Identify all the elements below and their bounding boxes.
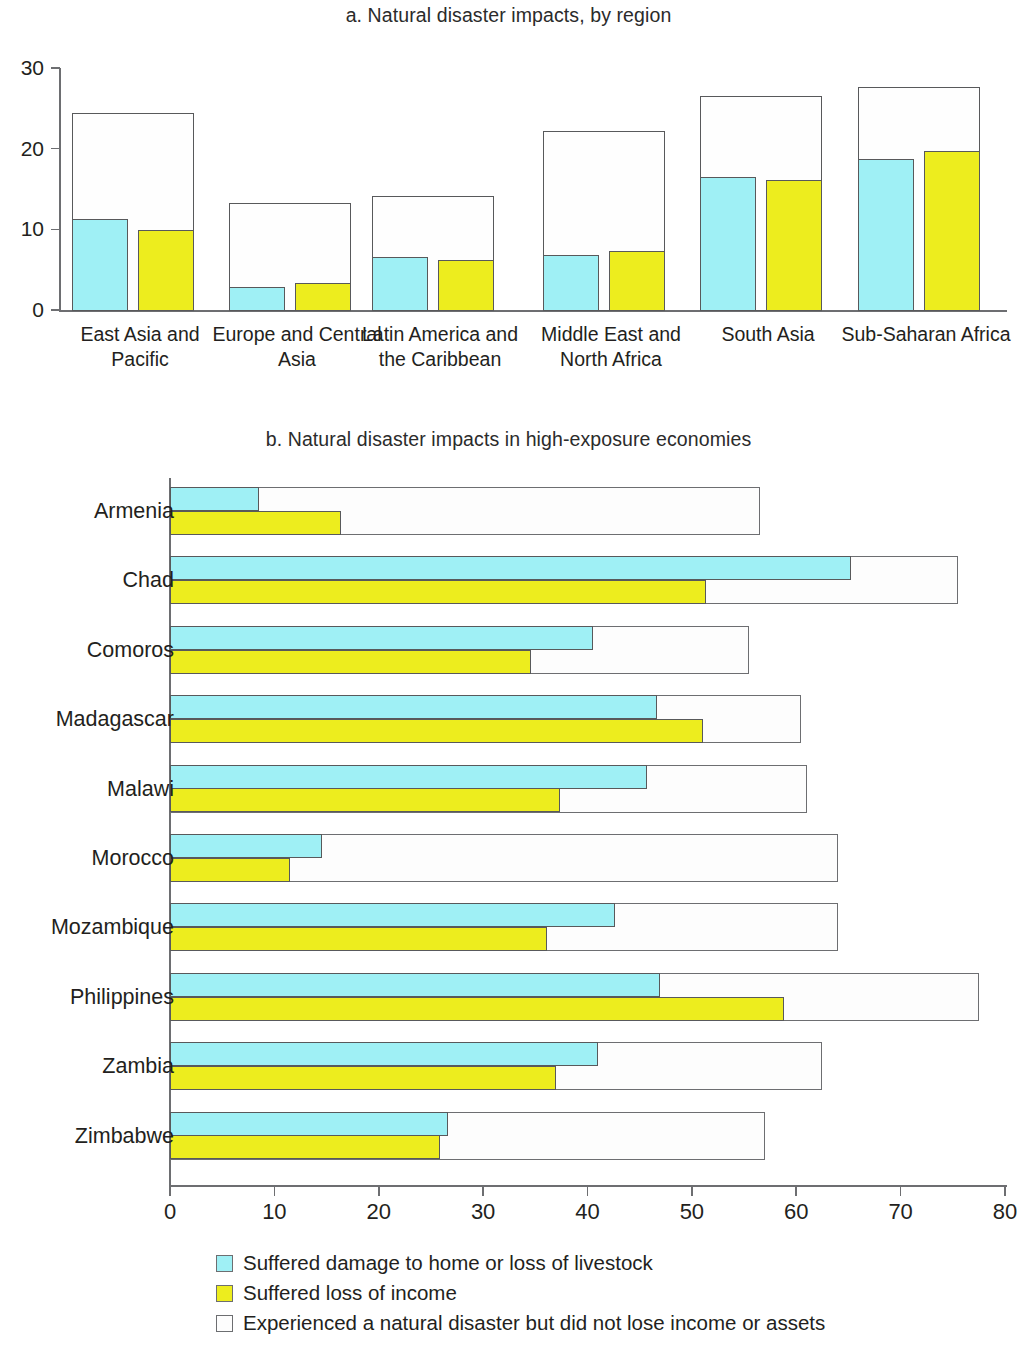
panel-b-bar-loss-income	[170, 719, 703, 743]
panel-b-x-tick-label: 70	[871, 1199, 931, 1225]
panel-b-bar-damage-home	[170, 765, 647, 789]
panel-b-category-label: Morocco	[92, 846, 174, 871]
panel-b-x-tick-label: 50	[662, 1199, 722, 1225]
panel-a-total-bar	[700, 96, 822, 311]
panel-b-x-tick-label: 60	[766, 1199, 826, 1225]
panel-a-y-axis-line	[59, 68, 61, 311]
panel-b-category-label: Zambia	[102, 1054, 174, 1079]
panel-b-x-tick	[482, 1185, 484, 1196]
legend-label: Suffered damage to home or loss of lives…	[243, 1251, 653, 1275]
panel-b-category-label: Armenia	[94, 499, 174, 524]
panel-a-bar-loss-income	[295, 283, 351, 311]
panel-b-total-bar	[170, 973, 979, 1021]
panel-b-category-label: Comoros	[87, 637, 174, 662]
panel-a-grouped-bar-chart: a. Natural disaster impacts, by region 0…	[0, 0, 1017, 415]
legend-label: Experienced a natural disaster but did n…	[243, 1311, 825, 1335]
panel-b-bar-loss-income	[170, 1066, 556, 1090]
panel-b-bar-loss-income	[170, 997, 784, 1021]
panel-b-x-tick	[795, 1185, 797, 1196]
panel-b-bar-loss-income	[170, 511, 341, 535]
panel-b-bar-damage-home	[170, 1112, 448, 1136]
panel-a-bar-group	[858, 68, 994, 311]
legend-swatch-icon	[216, 1255, 233, 1272]
panel-b-x-tick	[378, 1185, 380, 1196]
panel-b-category-label: Mozambique	[51, 915, 174, 940]
panel-b-bar-damage-home	[170, 626, 593, 650]
panel-b-x-tick-label: 0	[140, 1199, 200, 1225]
panel-a-bar-loss-income	[609, 251, 665, 312]
panel-a-category-label: Sub-Saharan Africa	[840, 322, 1012, 347]
legend-label: Suffered loss of income	[243, 1281, 457, 1305]
panel-a-category-label: East Asia and Pacific	[54, 322, 226, 372]
panel-a-y-tick-label: 10	[0, 217, 44, 241]
panel-b-total-bar	[170, 1042, 822, 1090]
panel-b-category-label: Madagascar	[56, 707, 174, 732]
panel-a-category-label: Middle East and North Africa	[525, 322, 697, 372]
panel-b-bar-loss-income	[170, 650, 531, 674]
legend-item: Suffered loss of income	[216, 1278, 1016, 1308]
panel-b-bar-loss-income	[170, 1135, 440, 1159]
panel-b-bar-damage-home	[170, 695, 657, 719]
panel-b-total-bar	[170, 626, 749, 674]
panel-a-category-label: South Asia	[682, 322, 854, 347]
panel-a-bar-loss-income	[924, 151, 980, 312]
panel-a-total-bar	[372, 196, 494, 311]
panel-b-category-label: Malawi	[107, 776, 174, 801]
panel-b-title: b. Natural disaster impacts in high-expo…	[0, 428, 1017, 451]
panel-a-bar-loss-income	[438, 260, 494, 311]
panel-b-horizontal-bar-chart: b. Natural disaster impacts in high-expo…	[0, 415, 1017, 1346]
panel-b-x-tick-label: 40	[558, 1199, 618, 1225]
panel-b-category-label: Chad	[123, 568, 174, 593]
panel-b-bar-loss-income	[170, 580, 706, 604]
panel-a-total-bar	[72, 113, 194, 311]
panel-a-y-tick-label: 30	[0, 56, 44, 80]
panel-a-y-tick	[51, 148, 60, 150]
panel-b-bar-damage-home	[170, 1042, 598, 1066]
panel-b-bar-damage-home	[170, 903, 615, 927]
panel-b-x-tick	[274, 1185, 276, 1196]
panel-b-bar-loss-income	[170, 788, 560, 812]
panel-b-bar-damage-home	[170, 556, 852, 580]
panel-a-bar-loss-income	[766, 180, 822, 311]
panel-a-y-tick-label: 20	[0, 137, 44, 161]
panel-b-category-label: Zimbabwe	[75, 1123, 174, 1148]
panel-a-y-tick-label: 0	[0, 298, 44, 322]
panel-b-total-bar	[170, 903, 838, 951]
panel-a-bar-group	[229, 68, 365, 311]
panel-a-total-bar	[858, 87, 980, 311]
panel-b-bar-loss-income	[170, 858, 290, 882]
legend-swatch-icon	[216, 1285, 233, 1302]
panel-b-x-tick-label: 10	[244, 1199, 304, 1225]
panel-a-bar-damage-home	[700, 177, 756, 311]
panel-b-x-tick	[587, 1185, 589, 1196]
panel-a-category-label: Latin America and the Caribbean	[354, 322, 526, 372]
panel-a-bar-loss-income	[138, 230, 194, 311]
panel-a-total-bar	[229, 203, 351, 311]
panel-b-x-tick	[900, 1185, 902, 1196]
panel-b-plot-area: 01020304050607080 ArmeniaChadComorosMada…	[0, 470, 1017, 1185]
panel-a-bar-group	[72, 68, 208, 311]
panel-a-bar-damage-home	[72, 219, 128, 311]
panel-a-category-labels: East Asia and PacificEurope and Central …	[0, 322, 1017, 417]
panel-a-title: a. Natural disaster impacts, by region	[0, 4, 1017, 27]
panel-a-bar-damage-home	[858, 159, 914, 311]
panel-a-plot-area: 0102030	[0, 55, 1017, 320]
panel-b-x-tick-label: 30	[453, 1199, 513, 1225]
panel-a-bar-group	[372, 68, 508, 311]
panel-b-total-bar	[170, 1112, 765, 1160]
legend-item: Experienced a natural disaster but did n…	[216, 1308, 1016, 1338]
panel-b-x-tick-label: 80	[975, 1199, 1017, 1225]
panel-a-bar-damage-home	[372, 257, 428, 311]
panel-b-category-label: Philippines	[70, 984, 174, 1009]
panel-a-y-tick	[51, 67, 60, 69]
panel-b-total-bar	[170, 834, 838, 882]
panel-a-bar-damage-home	[229, 287, 285, 311]
chart-legend: Suffered damage to home or loss of lives…	[216, 1248, 1016, 1338]
panel-b-x-tick	[691, 1185, 693, 1196]
panel-b-total-bar	[170, 695, 801, 743]
panel-a-total-bar	[543, 131, 665, 311]
panel-a-bar-group	[543, 68, 679, 311]
panel-a-y-tick	[51, 309, 60, 311]
panel-b-bar-loss-income	[170, 927, 547, 951]
panel-b-x-tick	[1004, 1185, 1006, 1196]
